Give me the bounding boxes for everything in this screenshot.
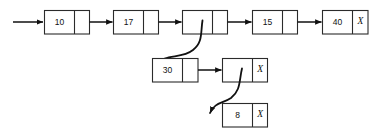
null-pointer-marker: X — [356, 16, 364, 26]
node-value: 15 — [263, 17, 273, 27]
list-node-15: 15 — [253, 11, 298, 35]
node-value: 30 — [163, 65, 173, 75]
list-node-40: 40 X — [323, 11, 369, 35]
diagram-canvas: 10 17 15 — [0, 0, 386, 135]
null-pointer-marker: X — [256, 64, 264, 74]
list-node-empty-1 — [183, 11, 228, 35]
list-node-empty-2: X — [223, 59, 268, 83]
node-value: 40 — [333, 17, 343, 27]
list-node-30: 30 — [153, 59, 199, 83]
list-node-8: 8 X — [223, 104, 268, 128]
null-pointer-marker: X — [256, 109, 264, 119]
node-value: 8 — [235, 110, 240, 120]
node-value: 17 — [124, 17, 134, 27]
list-node-10: 10 — [45, 11, 90, 35]
list-node-17: 17 — [114, 11, 159, 35]
node-value: 10 — [55, 17, 65, 27]
linked-list-diagram: 10 17 15 — [0, 0, 386, 135]
